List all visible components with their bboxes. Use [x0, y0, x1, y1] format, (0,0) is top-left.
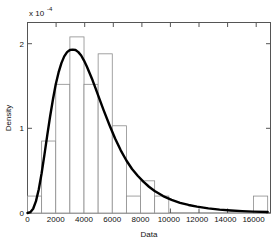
y-axis-title: Density: [4, 105, 13, 132]
x-tick-label: 6000: [103, 215, 121, 224]
histogram-bar: [98, 54, 112, 213]
histogram-bar: [84, 84, 98, 213]
x-tick-label: 14000: [214, 215, 237, 224]
x-axis-tick-labels: 0200040006000800010000120001400016000: [25, 215, 265, 224]
y-tick-label: 2: [20, 40, 25, 49]
y-tick-label: 1: [20, 124, 25, 133]
y-axis-exponent-mantissa: x 10: [29, 9, 45, 18]
x-tick-label: 2000: [47, 215, 65, 224]
x-tick-label: 4000: [75, 215, 93, 224]
histogram-bar: [70, 37, 84, 213]
y-tick-label: 0: [20, 209, 25, 218]
x-tick-label: 10000: [158, 215, 181, 224]
density-histogram-chart: 0200040006000800010000120001400016000 01…: [0, 0, 280, 252]
histogram-bar: [56, 84, 70, 213]
histogram-bar: [126, 196, 140, 213]
x-tick-label: 0: [25, 215, 30, 224]
x-tick-label: 8000: [132, 215, 150, 224]
x-tick-label: 12000: [186, 215, 209, 224]
y-axis-exponent-power: -4: [47, 6, 53, 12]
x-tick-label: 16000: [242, 215, 265, 224]
x-axis-title: Data: [141, 230, 158, 239]
histogram-bar: [254, 196, 268, 213]
